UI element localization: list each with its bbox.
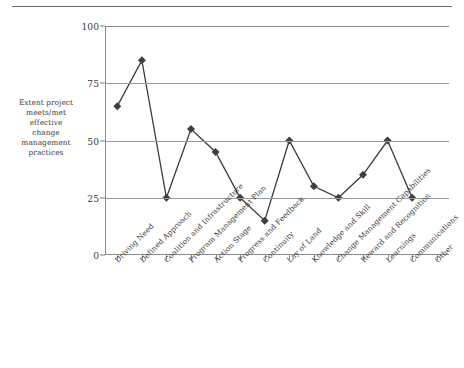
data-point-marker[interactable] (138, 56, 146, 64)
y-axis-title-line: Extent project (6, 98, 86, 108)
y-axis-title-line: meets/met (6, 108, 86, 118)
y-tick-label: 0 (93, 250, 99, 261)
data-point-marker[interactable] (310, 182, 318, 190)
y-tick-mark (100, 83, 105, 84)
y-gridline (105, 141, 449, 142)
y-tick-label: 50 (87, 135, 99, 146)
y-tick-mark (100, 255, 105, 256)
y-axis-title: Extent projectmeets/meteffectivechangema… (6, 98, 86, 159)
y-tick-label: 75 (87, 78, 99, 89)
chart-figure: Extent projectmeets/meteffectivechangema… (0, 0, 464, 368)
y-axis-title-line: change (6, 128, 86, 138)
y-axis-title-line: practices (6, 148, 86, 158)
y-gridline (105, 26, 449, 27)
y-tick-mark (100, 140, 105, 141)
y-tick-mark (100, 26, 105, 27)
data-point-marker[interactable] (113, 102, 121, 110)
y-tick-label: 100 (81, 21, 99, 32)
y-tick-label: 25 (87, 192, 99, 203)
x-axis-labels: Driving NeedDefined ApproachCoalition an… (105, 258, 449, 366)
y-tick-mark (100, 197, 105, 198)
y-gridline (105, 83, 449, 84)
y-axis-title-line: management (6, 138, 86, 148)
y-axis-title-line: effective (6, 118, 86, 128)
top-divider-rule (12, 6, 452, 7)
